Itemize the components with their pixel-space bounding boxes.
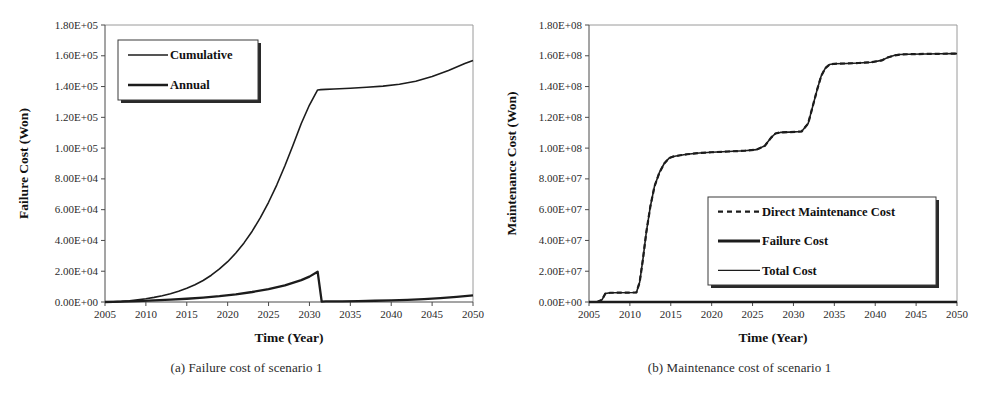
x-tick-label: 2015 [660, 308, 683, 320]
x-tick-label: 2005 [578, 308, 601, 320]
legend-label-direct-maintenance-cost: Direct Maintenance Cost [762, 205, 896, 219]
chart-a-content: 0.00E+002.00E+044.00E+046.00E+048.00E+04… [16, 19, 485, 345]
legend-label-annual: Annual [170, 78, 210, 92]
x-tick-label: 2035 [339, 308, 362, 320]
legend-label-total-cost: Total Cost [762, 264, 818, 278]
x-tick-label: 2050 [946, 308, 969, 320]
x-tick-label: 2050 [462, 308, 485, 320]
y-tick-label: 6.00E+04 [55, 203, 99, 215]
y-tick-label: 4.00E+07 [539, 234, 583, 246]
y-axis-title: Maintenance Cost (Won) [504, 92, 519, 236]
x-tick-label: 2020 [217, 308, 240, 320]
y-tick-label: 8.00E+07 [539, 172, 583, 184]
y-tick-label: 1.20E+08 [539, 111, 583, 123]
panel-b: 0.00E+002.00E+074.00E+076.00E+078.00E+07… [493, 0, 986, 410]
x-tick-label: 2025 [742, 308, 765, 320]
y-axis-title: Failure Cost (Won) [16, 108, 31, 219]
y-tick-label: 1.80E+05 [55, 19, 99, 31]
legend-label-failure-cost: Failure Cost [762, 234, 829, 248]
x-tick-label: 2030 [782, 308, 805, 320]
panel-a: 0.00E+002.00E+044.00E+046.00E+048.00E+04… [0, 0, 493, 410]
y-tick-label: 2.00E+04 [55, 265, 99, 277]
y-tick-label: 4.00E+04 [55, 234, 99, 246]
x-tick-label: 2045 [421, 308, 444, 320]
y-tick-label: 1.00E+08 [539, 142, 583, 154]
y-tick-label: 0.00E+00 [55, 296, 99, 308]
x-tick-label: 2045 [905, 308, 928, 320]
chart-b-content: 0.00E+002.00E+074.00E+076.00E+078.00E+07… [504, 19, 969, 345]
x-tick-label: 2015 [176, 308, 199, 320]
y-tick-label: 8.00E+04 [55, 172, 99, 184]
y-tick-label: 1.40E+08 [539, 80, 583, 92]
y-tick-label: 1.80E+08 [539, 19, 583, 31]
x-tick-label: 2035 [823, 308, 846, 320]
y-tick-label: 1.60E+08 [539, 49, 583, 61]
legend-label-cumulative: Cumulative [170, 48, 233, 62]
chart-b-svg: 0.00E+002.00E+074.00E+076.00E+078.00E+07… [493, 0, 986, 355]
y-tick-label: 1.20E+05 [55, 111, 99, 123]
y-tick-label: 6.00E+07 [539, 203, 583, 215]
series-annual [105, 272, 473, 302]
y-tick-label: 2.00E+07 [539, 265, 583, 277]
x-tick-label: 2030 [298, 308, 321, 320]
chart-failure-cost: 0.00E+002.00E+044.00E+046.00E+048.00E+04… [0, 0, 493, 355]
x-tick-label: 2010 [619, 308, 642, 320]
y-tick-label: 1.40E+05 [55, 80, 99, 92]
x-axis-title: Time (Year) [738, 330, 807, 345]
y-tick-label: 1.60E+05 [55, 49, 99, 61]
chart-maintenance-cost: 0.00E+002.00E+074.00E+076.00E+078.00E+07… [493, 0, 986, 355]
x-tick-label: 2025 [258, 308, 281, 320]
x-tick-label: 2010 [135, 308, 158, 320]
x-tick-label: 2020 [701, 308, 724, 320]
x-axis-title: Time (Year) [254, 330, 323, 345]
panel-a-caption: (a) Failure cost of scenario 1 [0, 360, 493, 376]
panel-b-caption: (b) Maintenance cost of scenario 1 [493, 360, 986, 376]
figure-row: 0.00E+002.00E+044.00E+046.00E+048.00E+04… [0, 0, 986, 410]
y-tick-label: 0.00E+00 [539, 296, 583, 308]
x-tick-label: 2005 [94, 308, 117, 320]
chart-a-svg: 0.00E+002.00E+044.00E+046.00E+048.00E+04… [0, 0, 493, 355]
x-tick-label: 2040 [380, 308, 403, 320]
x-tick-label: 2040 [864, 308, 887, 320]
y-tick-label: 1.00E+05 [55, 142, 99, 154]
